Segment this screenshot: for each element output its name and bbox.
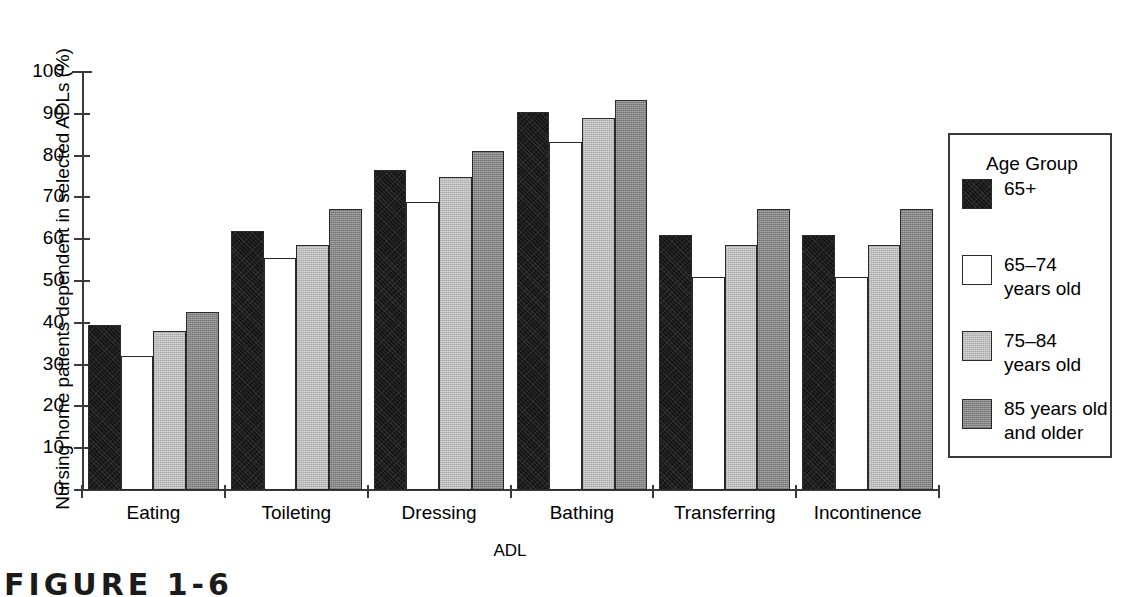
y-tick-label-10: 10 — [8, 436, 64, 458]
x-tick — [510, 485, 512, 498]
legend: Age Group 65+65–74 years old75–84 years … — [948, 133, 1112, 458]
legend-label: 65+ — [1004, 177, 1119, 201]
bar — [900, 209, 933, 490]
y-tick-label-40: 40 — [8, 311, 64, 333]
bar — [692, 277, 725, 490]
figure-caption: FIGURE 1-6 — [4, 567, 233, 597]
bar — [582, 118, 615, 490]
bar — [835, 277, 868, 490]
x-category-label-bathing: Bathing — [502, 502, 662, 524]
bar — [868, 245, 901, 490]
bar — [329, 209, 362, 490]
y-tick-label-20: 20 — [8, 394, 64, 416]
y-tick-40 — [74, 322, 90, 324]
bar — [472, 151, 505, 490]
y-tick-label-80: 80 — [8, 144, 64, 166]
legend-swatch-black — [962, 179, 992, 209]
y-tick-80 — [74, 155, 90, 157]
bar — [374, 170, 407, 490]
bar — [517, 112, 550, 490]
legend-label: 75–84 years old — [1004, 329, 1119, 377]
y-tick-label-100: 100 — [8, 60, 64, 82]
y-tick-label-70: 70 — [8, 185, 64, 207]
legend-swatch-medium-gray — [962, 399, 992, 429]
bar — [549, 142, 582, 490]
bar — [439, 177, 472, 491]
bar — [296, 245, 329, 490]
y-tick-100 — [72, 71, 92, 73]
x-category-label-transferring: Transferring — [645, 502, 805, 524]
bar — [615, 100, 648, 490]
y-tick-60 — [74, 238, 90, 240]
y-tick-70 — [74, 196, 90, 198]
y-tick-label-30: 30 — [8, 353, 64, 375]
bar — [186, 312, 219, 490]
bar — [121, 356, 154, 490]
bar — [725, 245, 758, 490]
x-category-label-dressing: Dressing — [359, 502, 519, 524]
legend-title: Age Group — [950, 153, 1114, 175]
y-tick-50 — [74, 280, 90, 282]
bar — [264, 258, 297, 490]
bar — [757, 209, 790, 490]
x-category-label-toileting: Toileting — [216, 502, 376, 524]
bar — [406, 202, 439, 490]
legend-swatch-white — [962, 255, 992, 285]
legend-label: 65–74 years old — [1004, 253, 1119, 301]
bar — [659, 235, 692, 490]
figure-bar-chart: Nursing home patients dependent in selec… — [0, 0, 1123, 597]
x-tick — [795, 485, 797, 498]
bar — [153, 331, 186, 490]
legend-swatch-light-gray — [962, 331, 992, 361]
x-tick — [652, 485, 654, 498]
x-category-label-eating: Eating — [73, 502, 233, 524]
y-tick-90 — [74, 113, 90, 115]
bar — [802, 235, 835, 490]
y-tick-label-90: 90 — [8, 102, 64, 124]
x-tick — [938, 485, 940, 498]
x-tick — [367, 485, 369, 498]
x-axis-title: ADL — [0, 541, 1020, 561]
y-tick-label-0: 0 — [8, 478, 64, 500]
x-tick — [81, 485, 83, 498]
x-tick — [224, 485, 226, 498]
y-tick-label-60: 60 — [8, 227, 64, 249]
legend-label: 85 years old and older — [1004, 397, 1119, 445]
x-category-label-incontinence: Incontinence — [788, 502, 948, 524]
bar — [231, 231, 264, 490]
y-tick-label-50: 50 — [8, 269, 64, 291]
bar — [88, 325, 121, 490]
